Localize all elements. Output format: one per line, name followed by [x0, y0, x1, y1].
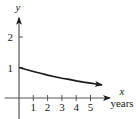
series-line-0	[19, 68, 102, 85]
x-axis-label: x	[119, 85, 125, 97]
x-tick-label-2: 2	[45, 101, 51, 113]
x-tick-label-3: 3	[59, 101, 65, 113]
x-tick-label-4: 4	[73, 101, 79, 113]
x-tick-label-1: 1	[31, 101, 37, 113]
x-axis-unit-label: years	[110, 97, 133, 109]
series	[19, 68, 102, 85]
chart: 1234512 y x years	[0, 0, 136, 119]
x-tick-label-5: 5	[88, 101, 94, 113]
ticks: 1234512	[8, 31, 94, 113]
y-axis-label: y	[15, 1, 21, 13]
y-tick-label-1: 1	[8, 62, 14, 74]
y-tick-label-2: 2	[8, 31, 14, 43]
